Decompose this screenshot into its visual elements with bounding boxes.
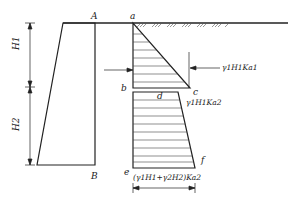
layer1-hatch — [133, 34, 185, 82]
point-label-b: b — [121, 84, 127, 93]
pressure-label-c: γ1H1Ka1 — [222, 64, 257, 72]
retaining-wall — [37, 23, 95, 165]
pressure-label-f: (γ1H1+γ2H2)Ka2 — [133, 174, 201, 182]
point-label-A: A — [91, 12, 98, 21]
point-label-B: B — [91, 172, 98, 181]
dimension-label-H2: H2 — [12, 117, 21, 131]
pressure-triangle-layer1 — [133, 23, 190, 88]
point-label-d: d — [157, 92, 163, 101]
height-dimension — [25, 23, 35, 165]
layer2-hatch — [133, 100, 194, 162]
point-label-a: a — [130, 12, 135, 21]
point-label-e: e — [124, 168, 129, 177]
bottom-dimension — [133, 183, 195, 193]
dimension-label-H1: H1 — [12, 36, 21, 50]
pressure-c-marker — [189, 52, 220, 88]
point-label-c: c — [193, 88, 198, 97]
pressure-label-d: γ1H1Ka2 — [186, 99, 221, 107]
point-label-f: f — [201, 156, 204, 165]
interface-arrow — [104, 68, 133, 72]
